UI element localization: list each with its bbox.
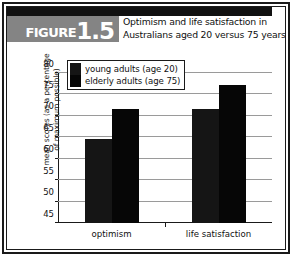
legend-swatch xyxy=(70,63,81,75)
y-tick-mark xyxy=(55,158,58,159)
x-tick-mark xyxy=(165,223,166,227)
y-tick-label: 45 xyxy=(43,209,54,219)
legend-item: young adults (age 20) xyxy=(70,63,180,75)
bar xyxy=(112,109,139,223)
figure-badge-text: FIGURE1.5 xyxy=(25,20,114,42)
y-tick-label: 60 xyxy=(43,144,54,154)
legend-label: elderly adults (age 75) xyxy=(85,76,180,86)
y-tick-mark xyxy=(55,115,58,116)
y-tick-label: 65 xyxy=(43,123,54,133)
figure-badge-number: 1.5 xyxy=(76,18,114,42)
x-category-label: optimism xyxy=(91,229,131,239)
y-tick-label: 80 xyxy=(43,59,54,69)
y-tick-label: 70 xyxy=(43,101,54,111)
y-tick-mark xyxy=(55,179,58,180)
legend-label: young adults (age 20) xyxy=(85,64,178,74)
y-tick-mark xyxy=(55,136,58,137)
y-tick-mark xyxy=(55,72,58,73)
figure-root: FIGURE1.5 Optimism and life satisfaction… xyxy=(0,0,292,256)
y-tick-mark xyxy=(55,222,58,223)
x-category-label: life satisfaction xyxy=(186,229,251,239)
y-tick-label: 55 xyxy=(43,166,54,176)
bar xyxy=(85,139,112,223)
legend-item: elderly adults (age 75) xyxy=(70,75,180,87)
chart-legend: young adults (age 20)elderly adults (age… xyxy=(67,60,185,90)
legend-swatch xyxy=(70,75,81,87)
figure-title-line-1: Optimism and life satisfaction in xyxy=(123,15,283,28)
bar xyxy=(219,85,246,223)
y-tick-label: 75 xyxy=(43,80,54,90)
figure-title: Optimism and life satisfaction in Austra… xyxy=(123,15,283,41)
bar xyxy=(192,109,219,223)
y-tick-label: 50 xyxy=(43,187,54,197)
plot-area: 4550556065707580 optimismlife satisfacti… xyxy=(58,73,272,223)
chart-area: mean scores (as a percentage of maximum … xyxy=(10,48,282,248)
y-tick-mark xyxy=(55,201,58,202)
figure-number-badge: FIGURE1.5 xyxy=(7,16,119,42)
y-tick-mark xyxy=(55,93,58,94)
figure-title-line-2: Australians aged 20 versus 75 years xyxy=(123,28,283,41)
